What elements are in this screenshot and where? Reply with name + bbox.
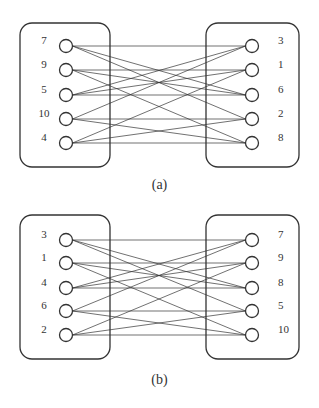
- right-node: [246, 257, 259, 270]
- right-node: [246, 234, 259, 247]
- left-node: [60, 282, 73, 295]
- right-node: [246, 329, 259, 342]
- left-node-label: 10: [39, 107, 51, 119]
- right-node: [246, 40, 259, 53]
- panel-caption: (a): [0, 177, 319, 193]
- left-node-label: 9: [41, 58, 47, 70]
- right-node-label: 9: [278, 251, 284, 263]
- left-node-label: 4: [41, 131, 47, 143]
- left-node: [60, 113, 73, 126]
- left-node: [60, 234, 73, 247]
- left-node: [60, 305, 73, 318]
- right-node-label: 2: [278, 107, 284, 119]
- left-node-label: 1: [41, 251, 47, 263]
- left-node: [60, 329, 73, 342]
- right-node: [246, 282, 259, 295]
- left-node-label: 4: [41, 276, 47, 288]
- right-node-label: 8: [278, 131, 284, 143]
- left-node: [60, 64, 73, 77]
- right-node: [246, 89, 259, 102]
- left-node-label: 5: [41, 83, 47, 95]
- right-node-label: 7: [278, 228, 284, 240]
- right-node: [246, 305, 259, 318]
- bipartite-diagram: 7951043162831462798510: [0, 0, 319, 408]
- right-node: [246, 64, 259, 77]
- left-node-label: 2: [41, 323, 47, 335]
- right-node-label: 5: [278, 299, 284, 311]
- left-node: [60, 40, 73, 53]
- right-node-label: 6: [278, 83, 284, 95]
- right-node-label: 8: [278, 276, 284, 288]
- left-node-label: 7: [41, 34, 47, 46]
- panel-caption: (b): [0, 372, 319, 388]
- right-node: [246, 137, 259, 150]
- left-node: [60, 137, 73, 150]
- right-node-label: 3: [278, 34, 284, 46]
- left-node: [60, 89, 73, 102]
- left-node-label: 3: [41, 228, 47, 240]
- right-node-label: 10: [278, 323, 290, 335]
- right-node-label: 1: [278, 58, 284, 70]
- right-node: [246, 113, 259, 126]
- left-node-label: 6: [41, 299, 47, 311]
- left-node: [60, 257, 73, 270]
